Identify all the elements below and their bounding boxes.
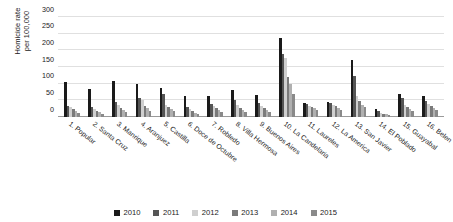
legend-label: 2014 bbox=[281, 208, 298, 217]
bar-group bbox=[418, 17, 442, 117]
bar bbox=[220, 112, 223, 117]
y-axis-tick-label: 300 bbox=[42, 4, 54, 13]
x-axis-label-cell: 5. Castilla bbox=[156, 118, 180, 186]
y-axis-tick-label: 100 bbox=[42, 71, 54, 80]
x-axis-label-cell: 9. Buenos Aires bbox=[251, 118, 275, 186]
bar bbox=[316, 110, 319, 117]
y-axis-title: Homicide rate per 100,000 bbox=[9, 0, 35, 81]
bar-groups bbox=[58, 17, 444, 117]
legend-label: 2010 bbox=[124, 208, 141, 217]
legend-item-2012[interactable]: 2012 bbox=[192, 208, 218, 217]
legend-item-2015[interactable]: 2015 bbox=[311, 208, 337, 217]
legend-label: 2011 bbox=[163, 208, 179, 217]
legend-item-2014[interactable]: 2014 bbox=[271, 208, 297, 217]
plot-area: 050100150200250300 bbox=[58, 17, 444, 117]
legend-swatch-icon bbox=[271, 210, 277, 216]
bar-group bbox=[299, 17, 323, 117]
bar bbox=[125, 112, 128, 117]
bar-group bbox=[84, 17, 108, 117]
y-axis-tick-label: 50 bbox=[46, 87, 54, 96]
bar-group bbox=[251, 17, 275, 117]
x-axis-label-cell: 3. Manrique bbox=[108, 118, 132, 186]
y-axis-tick-label: 250 bbox=[42, 21, 54, 30]
bar bbox=[388, 115, 391, 117]
bar-group bbox=[370, 17, 394, 117]
x-axis-label-cell: 6. Doce de Octubre bbox=[179, 118, 203, 186]
legend-swatch-icon bbox=[232, 210, 238, 216]
legend-swatch-icon bbox=[153, 210, 159, 216]
bar bbox=[244, 112, 247, 117]
x-axis-label-cell: 16. Belen bbox=[418, 118, 442, 186]
x-axis-label-cell: 8. Villa Hermosa bbox=[227, 118, 251, 186]
y-axis-title-line-2: per 100,000 bbox=[22, 11, 31, 52]
bar-group bbox=[179, 17, 203, 117]
legend-item-2010[interactable]: 2010 bbox=[114, 208, 140, 217]
bar bbox=[435, 110, 438, 117]
bar-group bbox=[156, 17, 180, 117]
x-axis-label: 16. Belen bbox=[426, 120, 453, 144]
y-axis-tick-label: 0 bbox=[50, 104, 54, 113]
chart-legend: 201020112012201320142015 bbox=[0, 208, 451, 217]
legend-label: 2012 bbox=[202, 208, 219, 217]
y-axis-title-line-1: Homicide rate bbox=[13, 8, 22, 55]
x-axis-label-cell: 15. Guayabal bbox=[394, 118, 418, 186]
bar-group bbox=[323, 17, 347, 117]
bar-group bbox=[132, 17, 156, 117]
legend-item-2013[interactable]: 2013 bbox=[232, 208, 258, 217]
bar-group bbox=[394, 17, 418, 117]
bar bbox=[149, 111, 152, 117]
x-axis-label-cell: 12. La America bbox=[323, 118, 347, 186]
legend-swatch-icon bbox=[311, 210, 317, 216]
bar-group bbox=[203, 17, 227, 117]
x-axis-label-cell: 11. Laureles bbox=[299, 118, 323, 186]
bar-group bbox=[227, 17, 251, 117]
bar bbox=[411, 111, 414, 117]
y-axis-tick-label: 150 bbox=[42, 54, 54, 63]
legend-swatch-icon bbox=[114, 210, 120, 216]
bar-group bbox=[347, 17, 371, 117]
x-axis-label-cell: 14. El Poblado bbox=[370, 118, 394, 186]
bar bbox=[197, 114, 200, 117]
bar bbox=[364, 107, 367, 117]
y-axis-tick-label: 200 bbox=[42, 37, 54, 46]
bar-group bbox=[108, 17, 132, 117]
x-axis-label-cell: 7. Robledo bbox=[203, 118, 227, 186]
legend-label: 2013 bbox=[241, 208, 258, 217]
x-axis-label-cell: 10. La Candelaria bbox=[275, 118, 299, 186]
bar bbox=[101, 114, 104, 117]
bar-group bbox=[275, 17, 299, 117]
bar bbox=[173, 111, 176, 117]
legend-swatch-icon bbox=[192, 210, 198, 216]
x-axis-label-cell: 1. Popular bbox=[60, 118, 84, 186]
legend-label: 2015 bbox=[320, 208, 337, 217]
bar bbox=[292, 94, 295, 117]
x-axis-labels: 1. Popular2. Santa Cruz3. Manrique4. Ara… bbox=[58, 118, 444, 186]
bar-group bbox=[60, 17, 84, 117]
bar bbox=[77, 113, 80, 117]
x-axis-label-cell: 4. Aranjuez bbox=[132, 118, 156, 186]
x-axis-label-cell: 13. San Javier bbox=[347, 118, 371, 186]
legend-item-2011[interactable]: 2011 bbox=[153, 208, 179, 217]
bar bbox=[340, 110, 343, 117]
x-axis-label-cell: 2. Santa Cruz bbox=[84, 118, 108, 186]
bar bbox=[268, 112, 271, 117]
